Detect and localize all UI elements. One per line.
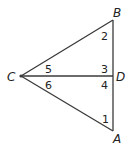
triangle-diagram: B C D A 2 5 3 6 4 1 <box>0 0 129 150</box>
segment-cb <box>21 20 113 76</box>
point-label-c: C <box>7 70 16 84</box>
point-c-dot <box>19 74 22 77</box>
angle-label-5: 5 <box>45 63 52 76</box>
point-label-a: A <box>112 132 121 146</box>
angle-label-2: 2 <box>101 30 108 43</box>
segment-ca <box>21 76 113 131</box>
point-label-b: B <box>113 6 121 20</box>
angle-label-1: 1 <box>102 113 109 126</box>
angle-label-6: 6 <box>45 79 52 92</box>
point-label-d: D <box>116 70 125 84</box>
angle-label-3: 3 <box>101 63 108 76</box>
angle-label-4: 4 <box>101 79 108 92</box>
